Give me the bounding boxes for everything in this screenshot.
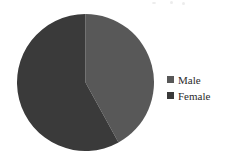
pie-svg <box>17 14 154 151</box>
pie-chart-figure: Male Female <box>0 0 229 166</box>
pie-slices <box>17 14 154 151</box>
legend-item-female[interactable]: Female <box>167 88 229 103</box>
pie-graphic <box>17 14 154 151</box>
legend-label-male: Male <box>178 74 201 86</box>
legend-swatch-male <box>167 76 174 83</box>
legend-item-male[interactable]: Male <box>167 72 229 87</box>
chart-plot-area <box>0 0 170 166</box>
legend-label-female: Female <box>178 90 210 102</box>
chart-legend: Male Female <box>167 72 229 104</box>
legend-swatch-female <box>167 92 174 99</box>
